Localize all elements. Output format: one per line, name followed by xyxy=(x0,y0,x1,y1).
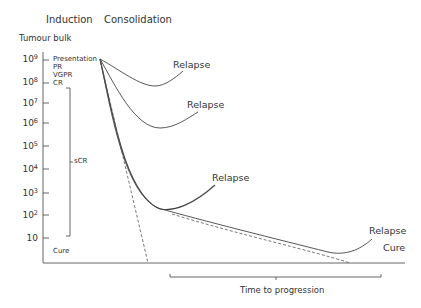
tumour-bulk-diagram xyxy=(0,0,421,308)
curve-cure-steep xyxy=(100,59,148,263)
curve-relapse-2 xyxy=(100,59,198,128)
curve-cure-slow xyxy=(172,214,350,263)
curve-relapse-4 xyxy=(100,59,372,253)
scr-bracket xyxy=(66,88,70,236)
time-to-progression-bracket xyxy=(170,274,381,277)
